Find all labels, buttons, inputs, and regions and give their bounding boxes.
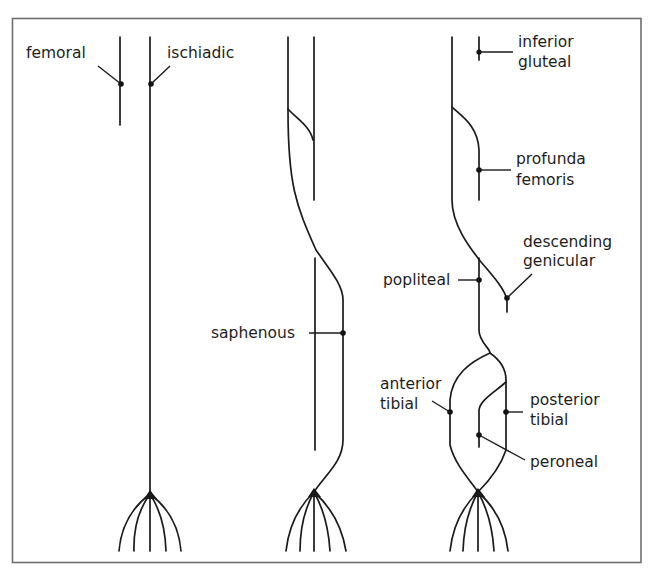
middle-upper-branch [288,109,313,140]
panel-middle: saphenous [211,37,346,551]
panel-left: femoral ischiadic [26,37,234,551]
ischiadic-leader [151,66,170,84]
foot-fan-right [450,488,508,551]
posterior-tibial-vessel [478,353,506,492]
anterior-tibial-leader [432,401,450,412]
femoral-leader [98,66,121,84]
label-posterior-tibial-1: posterior [530,391,600,409]
anterior-tibial-vessel [450,353,490,492]
profunda-femoris-vessel [452,107,479,200]
popliteal-vessel [479,258,490,353]
label-femoral: femoral [26,44,86,62]
label-posterior-tibial-2: tibial [530,411,568,429]
foot-fan-middle [286,488,346,551]
label-ischiadic: ischiadic [167,44,234,62]
label-peroneal: peroneal [530,453,598,471]
label-popliteal: popliteal [383,271,450,289]
label-anterior-tibial-2: tibial [380,395,418,413]
diagram-frame [13,19,642,563]
label-descending-genicular-1: descending [523,233,612,251]
label-profunda-femoris-1: profunda [516,150,586,168]
label-inferior-gluteal-2: gluteal [518,53,571,71]
label-descending-genicular-2: genicular [523,252,596,270]
label-inferior-gluteal-1: inferior [518,33,574,51]
label-profunda-femoris-2: femoris [516,171,574,189]
label-anterior-tibial-1: anterior [380,375,442,393]
label-saphenous: saphenous [211,324,295,342]
vessel-diagram: femoral ischiadic saphenous [0,0,652,571]
descending-genicular-leader [507,274,532,298]
panel-right: inferior gluteal profunda femoris descen… [380,33,612,551]
foot-fan-left [119,490,181,551]
peroneal-leader [479,435,525,460]
